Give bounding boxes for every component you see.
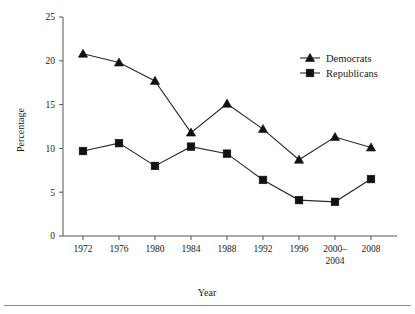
x-tick-label: 1976 (110, 244, 129, 254)
x-tick-label: 1996 (290, 244, 309, 254)
data-point-marker (223, 150, 231, 158)
data-point-marker (187, 143, 195, 151)
x-tick-label: 1992 (254, 244, 273, 254)
y-tick-label: 10 (46, 144, 56, 154)
data-point-marker (151, 162, 159, 170)
x-tick-label: 2000– (323, 244, 347, 254)
legend-label-republicans: Republicans (326, 68, 378, 79)
data-point-marker (367, 175, 375, 183)
data-point-marker (331, 198, 339, 206)
data-point-marker (259, 176, 267, 184)
x-tick-label: 2008 (362, 244, 381, 254)
x-tick-label-second-line: 2004 (326, 256, 345, 266)
x-tick-label: 1972 (74, 244, 93, 254)
chart-figure: 0510152025 19721976198019841988199219962… (0, 0, 415, 314)
legend-label-democrats: Democrats (326, 53, 371, 64)
y-tick-label: 5 (50, 188, 55, 198)
data-point-marker (295, 196, 303, 204)
data-point-marker (79, 147, 87, 155)
y-tick-label: 25 (46, 12, 56, 22)
y-axis-title: Percentage (15, 108, 26, 152)
x-tick-label: 1988 (218, 244, 237, 254)
chart-background (0, 0, 415, 314)
x-tick-label: 1980 (146, 244, 165, 254)
y-tick-label: 20 (46, 56, 56, 66)
y-tick-label: 0 (50, 231, 55, 241)
y-tick-label: 15 (46, 100, 56, 110)
x-tick-label: 1984 (182, 244, 201, 254)
data-point-marker (115, 139, 123, 147)
legend-marker-republicans (306, 69, 314, 77)
footer-divider (4, 305, 411, 306)
line-chart: 0510152025 19721976198019841988199219962… (0, 0, 415, 314)
x-axis-title: Year (198, 287, 217, 298)
